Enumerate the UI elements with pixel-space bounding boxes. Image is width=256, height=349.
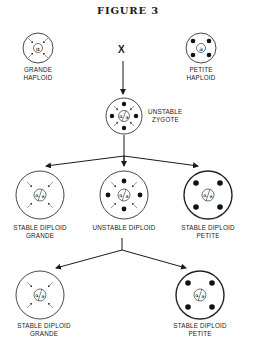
svg-text:α: α [119,113,123,119]
svg-text:α: α [36,45,40,52]
cell-unstable-zygote: α a [106,98,142,134]
svg-text:a: a [201,293,204,299]
svg-text:a: a [209,193,212,199]
svg-text:a: a [41,293,44,299]
label-line: PETITE [189,66,212,73]
cell-grande-haploid: α [23,33,53,63]
cell-stable-diploid-petite-1: α a [184,171,232,219]
label-stable-diploid-grande-2: STABLE DIPLOIDGRANDE [8,322,80,338]
cell-petite-haploid: a [186,33,216,63]
cell-unstable-diploid: α a [100,171,148,219]
svg-text:α: α [119,192,123,198]
cell-stable-diploid-petite-2: α a [176,271,224,319]
cell-stable-diploid-grande-1: α a [16,171,64,219]
label-line: STABLE DIPLOID [17,322,70,329]
label-line: PETITE [196,232,219,239]
label-line: GRANDE [26,232,54,239]
label-unstable-zygote: UNSTABLE ZYGOTE [148,108,198,124]
label-line: STABLE DIPLOID [13,224,66,231]
diagram-canvas: α a α a [0,0,256,349]
label-line: HAPLOID [23,74,52,81]
label-line: STABLE DIPLOID [173,322,226,329]
label-petite-haploid: PETITEHAPLOID [176,66,226,82]
svg-text:a: a [199,45,203,52]
label-line: PETITE [188,330,211,337]
svg-text:α: α [35,192,39,198]
label-line: UNSTABLE DIPLOID [93,224,156,231]
label-stable-diploid-petite-2: STABLE DIPLOIDPETITE [164,322,236,338]
diploid-branch-arrows [56,238,186,268]
svg-text:α: α [35,292,39,298]
label-line: HAPLOID [186,74,215,81]
label-line: GRANDE [30,330,58,337]
svg-text:α: α [203,192,207,198]
cell-stable-diploid-grande-2: α a [16,271,64,319]
zygote-branch-arrows [46,135,198,166]
label-line: STABLE DIPLOID [181,224,234,231]
label-stable-diploid-grande-1: STABLE DIPLOIDGRANDE [4,224,76,240]
svg-text:a: a [125,114,128,120]
label-unstable-diploid: UNSTABLE DIPLOID [86,224,162,232]
label-line: ZYGOTE [152,116,179,123]
label-grande-haploid: GRANDEHAPLOID [13,66,63,82]
svg-text:a: a [41,193,44,199]
label-stable-diploid-petite-1: STABLE DIPLOIDPETITE [172,224,244,240]
label-line: UNSTABLE [148,108,182,115]
svg-text:a: a [125,193,128,199]
label-line: GRANDE [24,66,52,73]
svg-text:α: α [195,292,199,298]
